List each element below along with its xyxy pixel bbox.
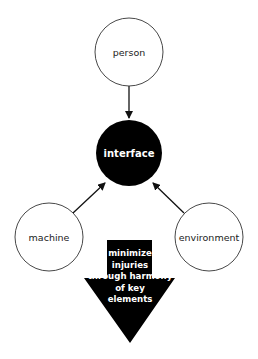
outcome-line-4: of key	[115, 283, 145, 293]
outcome-line-5: elements	[108, 294, 153, 304]
outcome-line-1: minimize	[108, 248, 152, 258]
diagram-canvas: person interface machine environment min…	[0, 0, 258, 359]
node-interface: interface	[96, 120, 162, 186]
node-machine: machine	[15, 203, 83, 271]
node-person: person	[95, 18, 163, 86]
node-environment: environment	[175, 203, 243, 271]
outcome-line-3: through harmony	[88, 271, 173, 281]
edge-environment-interface	[153, 183, 184, 213]
edge-machine-interface	[73, 183, 105, 213]
node-environment-label: environment	[179, 232, 240, 243]
node-machine-label: machine	[29, 232, 70, 243]
outcome-arrow: minimize injuries through harmony of key…	[84, 240, 175, 343]
node-interface-label: interface	[104, 148, 155, 159]
node-person-label: person	[113, 47, 146, 58]
outcome-line-2: injuries	[112, 260, 148, 270]
